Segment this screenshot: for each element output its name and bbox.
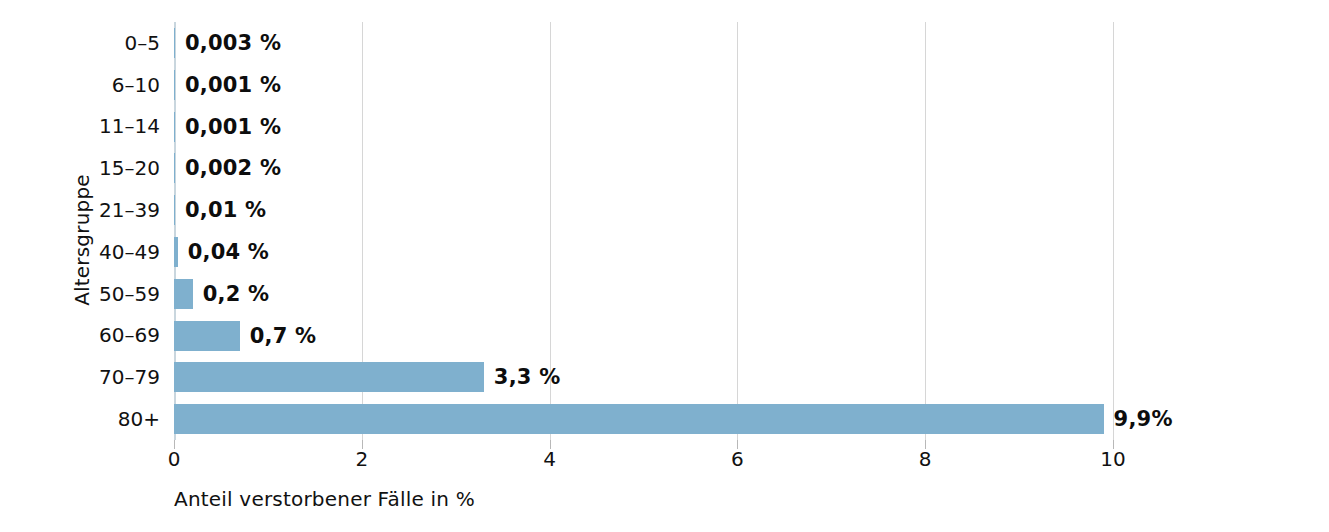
bar-row: 0,002 % bbox=[174, 153, 1113, 183]
bar-row: 0,7 % bbox=[174, 321, 1113, 351]
x-tick-label: 0 bbox=[168, 447, 181, 471]
bar bbox=[174, 237, 178, 267]
y-axis-tick-label: 21–39 bbox=[0, 189, 174, 231]
y-axis-tick-label: 60–69 bbox=[0, 315, 174, 357]
bar-row: 0,003 % bbox=[174, 28, 1113, 58]
x-tick-label: 4 bbox=[543, 447, 556, 471]
bar-value-label: 0,2 % bbox=[203, 282, 270, 306]
bar-value-label: 0,003 % bbox=[185, 31, 281, 55]
gridline-10 bbox=[1113, 22, 1114, 440]
bar bbox=[174, 28, 175, 58]
bar bbox=[174, 112, 175, 142]
x-tick-label: 6 bbox=[731, 447, 744, 471]
plot-area: 0,003 %0,001 %0,001 %0,002 %0,01 %0,04 %… bbox=[174, 22, 1113, 440]
bar-value-label: 9,9% bbox=[1114, 407, 1173, 431]
bar-value-label: 0,002 % bbox=[185, 156, 281, 180]
y-axis-tick-label: 0–5 bbox=[0, 22, 174, 64]
bar bbox=[174, 70, 175, 100]
bar bbox=[174, 153, 175, 183]
y-axis-tick-label: 40–49 bbox=[0, 231, 174, 273]
bar-value-label: 0,7 % bbox=[250, 324, 317, 348]
bar-row: 0,04 % bbox=[174, 237, 1113, 267]
x-tick-label: 2 bbox=[355, 447, 368, 471]
bar-row: 3,3 % bbox=[174, 362, 1113, 392]
bar-value-label: 0,001 % bbox=[185, 73, 281, 97]
x-tick-label: 8 bbox=[919, 447, 932, 471]
bar-row: 0,001 % bbox=[174, 112, 1113, 142]
bar-value-label: 3,3 % bbox=[494, 365, 561, 389]
y-axis-tick-label: 15–20 bbox=[0, 147, 174, 189]
bar-row: 0,2 % bbox=[174, 279, 1113, 309]
bar-row: 9,9% bbox=[174, 404, 1113, 434]
bar-row: 0,01 % bbox=[174, 195, 1113, 225]
y-axis-tick-label: 70–79 bbox=[0, 356, 174, 398]
y-axis-tick-label: 50–59 bbox=[0, 273, 174, 315]
bar-value-label: 0,001 % bbox=[185, 115, 281, 139]
y-axis-tick-label: 11–14 bbox=[0, 106, 174, 148]
y-axis-tick-label: 80+ bbox=[0, 398, 174, 440]
y-axis-tick-label: 6–10 bbox=[0, 64, 174, 106]
bar-value-label: 0,04 % bbox=[188, 240, 269, 264]
bar bbox=[174, 279, 193, 309]
bar bbox=[174, 195, 175, 225]
bar-chart: Altersgruppe 0–56–1011–1415–2021–3940–49… bbox=[0, 0, 1329, 532]
x-tick-label: 10 bbox=[1100, 447, 1125, 471]
bar bbox=[174, 321, 240, 351]
bar bbox=[174, 404, 1104, 434]
bar bbox=[174, 362, 484, 392]
x-axis-title: Anteil verstorbener Fälle in % bbox=[174, 487, 475, 511]
bar-value-label: 0,01 % bbox=[185, 198, 266, 222]
bar-row: 0,001 % bbox=[174, 70, 1113, 100]
